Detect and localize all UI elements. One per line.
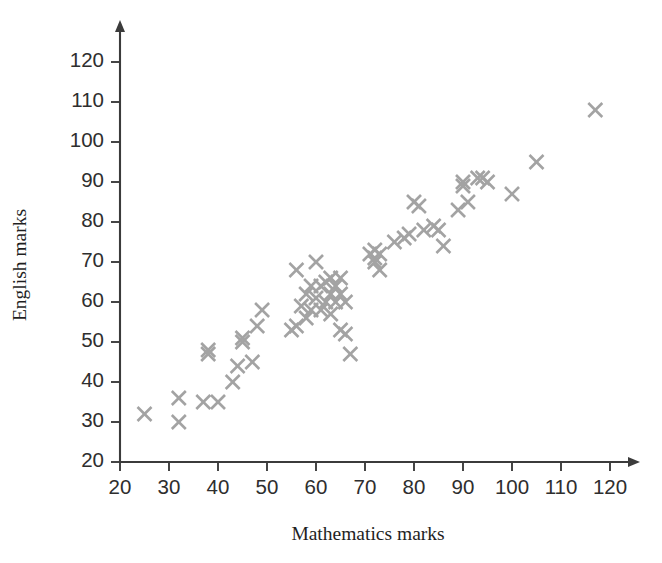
x-axis-title: Mathematics marks	[291, 523, 444, 544]
data-point-marker	[309, 255, 323, 269]
chart-canvas: 2030405060708090100110120 20304050607080…	[0, 0, 662, 563]
x-axis-ticks: 2030405060708090100110120	[109, 462, 628, 498]
x-tick-label: 50	[256, 475, 279, 498]
y-tick-label: 90	[81, 168, 104, 191]
data-point-marker	[530, 155, 544, 169]
data-point-marker	[231, 359, 245, 373]
y-tick-label: 30	[81, 408, 104, 431]
y-tick-label: 110	[71, 88, 104, 111]
data-point-marker	[211, 395, 225, 409]
data-point-marker	[461, 195, 475, 209]
y-tick-label: 60	[81, 288, 104, 311]
data-point-marker	[338, 327, 352, 341]
data-point-marker	[245, 355, 259, 369]
data-point-marker	[172, 391, 186, 405]
x-tick-label: 90	[452, 475, 475, 498]
data-point-marker	[505, 187, 519, 201]
data-points-layer	[138, 103, 603, 429]
y-tick-label: 40	[81, 368, 104, 391]
y-tick-label: 80	[81, 208, 104, 231]
data-point-marker	[226, 375, 240, 389]
x-tick-label: 110	[545, 475, 578, 498]
y-tick-label: 120	[70, 48, 104, 71]
data-point-marker	[250, 319, 264, 333]
data-point-marker	[255, 303, 269, 317]
x-tick-label: 70	[354, 475, 377, 498]
y-tick-label: 20	[81, 448, 104, 471]
data-point-marker	[138, 407, 152, 421]
data-point-marker	[196, 395, 210, 409]
y-axis-title: English marks	[9, 209, 30, 321]
data-point-marker	[588, 103, 602, 117]
y-axis-ticks: 2030405060708090100110120	[70, 48, 120, 471]
x-tick-label: 30	[158, 475, 181, 498]
data-point-marker	[289, 263, 303, 277]
y-tick-label: 100	[70, 128, 104, 151]
data-point-marker	[436, 239, 450, 253]
x-tick-label: 120	[593, 475, 627, 498]
data-point-marker	[402, 227, 416, 241]
x-tick-label: 20	[109, 475, 132, 498]
axis-lines	[115, 20, 640, 467]
x-tick-label: 100	[495, 475, 529, 498]
data-point-marker	[343, 347, 357, 361]
y-tick-label: 70	[81, 248, 104, 271]
x-tick-label: 80	[403, 475, 426, 498]
x-tick-label: 60	[305, 475, 328, 498]
scatter-plot-figure: 2030405060708090100110120 20304050607080…	[0, 0, 662, 563]
x-tick-label: 40	[207, 475, 230, 498]
y-tick-label: 50	[81, 328, 104, 351]
data-point-marker	[172, 415, 186, 429]
data-point-marker	[412, 199, 426, 213]
data-point-marker	[432, 223, 446, 237]
